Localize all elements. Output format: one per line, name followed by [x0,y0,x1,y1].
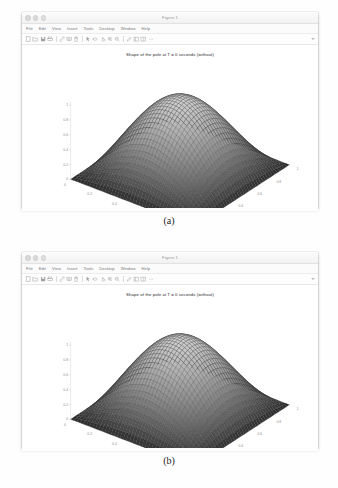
x-axis-tick-label: 0 [64,183,66,187]
insert-legend-icon[interactable] [66,36,72,42]
menu-item-tools[interactable]: Tools [83,24,93,33]
x-axis-tick-label: 0.2 [87,192,92,196]
window-titlebar-b: Figure 1 [22,252,318,264]
figure-caption-b: (b) [0,455,338,466]
x-axis-tick-label: 0.4 [112,442,117,446]
menu-item-desktop[interactable]: Desktop [99,264,114,273]
menu-item-view[interactable]: View [52,24,61,33]
menu-item-view[interactable]: View [52,264,61,273]
figure-caption-a: (a) [0,215,338,226]
menu-item-insert[interactable]: Insert [67,24,77,33]
data-cursor-icon[interactable] [85,36,91,42]
menu-item-insert[interactable]: Insert [67,264,77,273]
z-axis-tick-label: 0.6 [63,133,68,137]
figure-canvas-a: Shape of the pole at T = 0 seconds (with… [22,45,318,211]
show-plot-tools-icon[interactable] [133,276,139,282]
hide-plot-tools-icon[interactable] [140,276,146,282]
z-axis-tick-label: 0.8 [63,118,68,122]
show-plot-tools-icon[interactable] [133,36,139,42]
toolbar-overflow-icon[interactable] [311,38,315,40]
menubar-a[interactable]: File Edit View Insert Tools Desktop Wind… [22,24,318,34]
z-axis-tick-label: 0.4 [63,388,68,392]
y-axis-tick-label: 0.8 [276,420,281,424]
rotate-3d-icon[interactable] [92,36,98,42]
surface-mesh [71,94,290,208]
toolbar-separator [56,276,57,282]
z-axis-tick-label: 0.8 [63,358,68,362]
menu-item-file[interactable]: File [26,24,33,33]
toolbar-separator [82,36,83,42]
menu-item-file[interactable]: File [26,264,33,273]
document-page: Figure 1 File Edit View Insert Tools Des… [0,0,338,488]
figure-canvas-b: Shape of the pole at T = 0 seconds (with… [22,285,318,451]
toolbar-b[interactable] [22,274,318,285]
window-titlebar-a: Figure 1 [22,12,318,24]
new-figure-icon[interactable] [25,276,31,282]
menu-item-desktop[interactable]: Desktop [99,24,114,33]
z-axis-tick-label: 1 [66,343,68,347]
menu-item-window[interactable]: Window [121,264,136,273]
x-axis-tick-label: 0.2 [87,432,92,436]
y-axis-tick-label: 0.4 [238,204,243,208]
zoom-in-icon[interactable] [107,36,113,42]
y-axis-tick-label: 0.6 [257,432,262,436]
y-axis-tick-label: 0.4 [238,444,243,448]
menu-item-edit[interactable]: Edit [39,264,46,273]
zoom-out-icon[interactable] [114,36,120,42]
toolbar-separator [82,276,83,282]
save-icon[interactable] [40,276,46,282]
z-axis-tick-label: 0.2 [63,163,68,167]
surface-plot-b[interactable]: 00.20.40.60.8100.20.40.60.8100.20.40.60.… [28,296,312,448]
pan-icon[interactable] [100,276,106,282]
y-axis-tick-label: 0.8 [276,180,281,184]
z-axis-tick-label: 0 [66,177,68,181]
z-axis-tick-label: 0.2 [63,403,68,407]
edit-plot-icon[interactable] [126,36,132,42]
open-folder-icon[interactable] [32,276,38,282]
edit-plot-icon[interactable] [126,276,132,282]
toolbar-overflow-icon[interactable] [311,278,315,280]
z-axis-tick-label: 1 [66,103,68,107]
toolbar-separator [123,36,124,42]
y-axis-tick-label: 0.6 [257,192,262,196]
menubar-b[interactable]: File Edit View Insert Tools Desktop Wind… [22,264,318,274]
toolbar-separator [56,36,57,42]
menu-item-help[interactable]: Help [142,264,151,273]
open-folder-icon[interactable] [32,36,38,42]
save-icon[interactable] [40,36,46,42]
more-options-icon[interactable] [148,36,154,42]
y-axis-tick-label: 1 [297,407,299,411]
toolbar-separator [123,276,124,282]
data-cursor-icon[interactable] [85,276,91,282]
menu-item-edit[interactable]: Edit [39,24,46,33]
window-title-a: Figure 1 [22,14,318,21]
hide-plot-tools-icon[interactable] [140,36,146,42]
menu-item-window[interactable]: Window [121,24,136,33]
surface-mesh [71,334,290,448]
pan-icon[interactable] [100,36,106,42]
x-axis-tick-label: 0 [64,423,66,427]
zoom-in-icon[interactable] [107,276,113,282]
matlab-figure-window-b: Figure 1 File Edit View Insert Tools Des… [22,252,318,448]
surface-plot-a[interactable]: 00.20.40.60.8100.20.40.60.8100.20.40.60.… [28,56,312,208]
insert-colorbar-icon[interactable] [73,36,79,42]
rotate-3d-icon[interactable] [92,276,98,282]
toolbar-a[interactable] [22,34,318,45]
z-axis-tick-label: 0.4 [63,148,68,152]
menu-item-help[interactable]: Help [142,24,151,33]
link-plot-icon[interactable] [59,36,65,42]
menu-item-tools[interactable]: Tools [83,264,93,273]
insert-colorbar-icon[interactable] [73,276,79,282]
window-title-b: Figure 1 [22,254,318,261]
zoom-out-icon[interactable] [114,276,120,282]
y-axis-tick-label: 1 [297,167,299,171]
new-figure-icon[interactable] [25,36,31,42]
matlab-figure-window-a: Figure 1 File Edit View Insert Tools Des… [22,12,318,208]
insert-legend-icon[interactable] [66,276,72,282]
link-plot-icon[interactable] [59,276,65,282]
x-axis-tick-label: 0.4 [112,202,117,206]
print-icon[interactable] [47,36,53,42]
more-options-icon[interactable] [148,276,154,282]
print-icon[interactable] [47,276,53,282]
z-axis-tick-label: 0.6 [63,373,68,377]
